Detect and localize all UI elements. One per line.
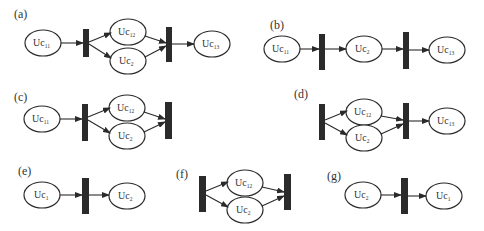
transition-bar (199, 176, 206, 212)
panel-f: (f) Uc12 Uc2 (176, 167, 291, 223)
place-uc11: Uc11 (264, 36, 300, 62)
arc-arrow (325, 111, 347, 120)
transition-bar (83, 29, 89, 57)
transition-bar (319, 104, 325, 140)
arc-arrow (88, 108, 110, 117)
place-uc12: Uc12 (227, 170, 263, 196)
panel-label: (e) (18, 164, 31, 178)
arc-arrow (381, 124, 403, 134)
arc-arrow (88, 120, 110, 133)
place-uc2: Uc2 (227, 197, 263, 223)
place-uc12: Uc12 (109, 95, 145, 121)
place-uc1: Uc1 (426, 183, 462, 209)
panel-label: (d) (294, 87, 308, 101)
transition-bar (401, 178, 408, 214)
place-uc11: Uc11 (25, 30, 61, 56)
place-uc1: Uc1 (24, 182, 60, 208)
panel-d: (d) Uc12 Uc2 Uc13 (294, 87, 465, 151)
arc-arrow (89, 44, 111, 58)
transition-bar (403, 32, 409, 69)
arc-arrow (89, 33, 111, 42)
panel-c: (c) Uc11 Uc12 Uc2 (14, 90, 172, 149)
place-uc2: Uc2 (346, 125, 382, 151)
arc-arrow (144, 122, 165, 132)
place-uc2: Uc2 (109, 183, 145, 209)
transition-bar (165, 102, 172, 139)
arc-arrow (325, 123, 347, 135)
transition-bar (82, 178, 89, 214)
place-uc2: Uc2 (110, 48, 146, 74)
arc-arrow (262, 196, 284, 206)
place-uc12: Uc12 (110, 19, 146, 45)
place-uc2: Uc2 (109, 123, 145, 149)
panel-label: (b) (270, 18, 284, 32)
panel-label: (c) (14, 90, 27, 104)
arc-arrow (145, 36, 166, 43)
transition-bar (166, 27, 172, 62)
petri-net-figure: (a) Uc11 Uc12 Uc2 Uc13 (b) Uc11 (0, 0, 484, 231)
arc-arrow (145, 46, 166, 57)
panel-e: (e) Uc1 Uc2 (18, 164, 145, 214)
place-uc13: Uc13 (194, 31, 230, 57)
panel-a: (a) Uc11 Uc12 Uc2 Uc13 (14, 7, 230, 74)
transition-bar (403, 103, 409, 139)
place-uc11: Uc11 (24, 106, 60, 132)
transition-bar (284, 174, 291, 210)
arc-arrow (381, 116, 403, 120)
place-uc13: Uc13 (429, 37, 465, 63)
place-uc13: Uc13 (429, 108, 465, 134)
arc-arrow (206, 182, 228, 191)
panel-label: (a) (14, 7, 27, 21)
arc-arrow (206, 195, 228, 207)
panel-label: (f) (176, 167, 188, 181)
place-uc2: Uc2 (345, 182, 381, 208)
place-uc2: Uc2 (346, 36, 382, 62)
place-uc12: Uc12 (346, 99, 382, 125)
transition-bar (82, 104, 88, 141)
panel-b: (b) Uc11 Uc2 Uc13 (264, 18, 465, 70)
panel-label: (g) (327, 169, 341, 183)
arc-arrow (144, 112, 165, 119)
panel-g: (g) Uc2 Uc1 (327, 169, 462, 214)
transition-bar (319, 34, 325, 70)
arc-arrow (262, 187, 284, 192)
